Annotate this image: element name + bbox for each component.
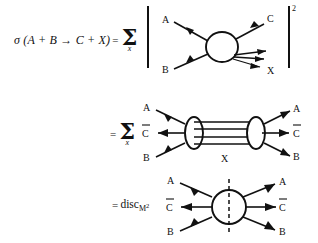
amplitude-bar-right: [288, 6, 290, 68]
diagram-ladder: A C B A C B X: [140, 100, 305, 172]
diagram3-left-label-B: B: [167, 226, 174, 237]
diagram2-left-label-A: A: [143, 102, 151, 113]
diagram3-right-label-C: C: [279, 202, 286, 213]
diagram1-label-C: C: [267, 13, 274, 24]
diagram2-right-label-C: C: [293, 128, 300, 139]
sigma-subscript-1: x: [128, 46, 132, 53]
amplitude-bar-left: [147, 6, 149, 68]
diagram2-right-label-A: A: [293, 103, 301, 114]
disc-operator-subscript: M2: [139, 204, 149, 213]
diagram2-right-label-B: B: [293, 151, 300, 162]
diagram2-left-label-C: C: [142, 128, 149, 139]
equation-line-3: = discM2: [110, 198, 149, 213]
disc-operator: discM2: [120, 198, 149, 213]
figure-canvas: σ (A + B → C + X) = Σ x: [0, 0, 318, 243]
equals-sign-1: =: [110, 35, 120, 46]
diagram3-left-label-A: A: [167, 175, 175, 186]
diagram3-right-label-B: B: [279, 226, 286, 237]
diagram2-label-X: X: [221, 153, 229, 164]
diagram-amplitude-blob: A B C X: [160, 10, 285, 82]
cross-section-expression: σ (A + B → C + X): [14, 34, 110, 46]
diagram-disc-blob: A C B A C B: [165, 175, 310, 241]
sigma-subscript-2: x: [125, 140, 129, 147]
summation-2: Σ x: [119, 122, 135, 146]
diagram1-label-X: X: [267, 65, 275, 76]
diagram1-label-A: A: [162, 14, 170, 25]
diagram2-left-label-B: B: [143, 152, 150, 163]
equation-line-1: σ (A + B → C + X) = Σ x: [14, 28, 138, 52]
equation-line-2: = Σ x: [108, 122, 136, 146]
equals-sign-3: =: [110, 200, 120, 211]
disc-operator-text: disc: [120, 198, 139, 210]
diagram3-left-label-C: C: [166, 202, 173, 213]
amplitude-squared-exponent: 2: [292, 4, 296, 13]
equals-sign-2: =: [108, 129, 118, 140]
diagram3-right-label-A: A: [279, 176, 287, 187]
summation-1: Σ x: [122, 28, 138, 52]
diagram1-label-B: B: [162, 64, 169, 75]
